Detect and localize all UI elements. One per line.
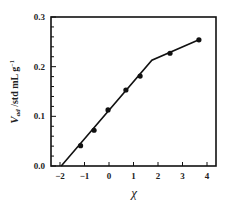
y-axis-ticks: 0.00.10.20.3 [34, 12, 56, 171]
x-tick-label: 1 [131, 171, 136, 181]
x-tick-label: −1 [80, 171, 90, 181]
plot-border [51, 17, 216, 166]
data-point [78, 143, 83, 148]
x-axis-label: χ [129, 185, 137, 200]
x-tick-label: 0 [107, 171, 112, 181]
data-points [78, 37, 202, 148]
y-tick-label: 0.1 [34, 111, 46, 121]
plot-frame [51, 17, 216, 166]
data-point [105, 107, 110, 112]
y-label-rest: /std mL g [9, 67, 20, 110]
data-point [196, 37, 201, 42]
y-tick-label: 0.0 [34, 161, 46, 171]
x-tick-label: 3 [180, 171, 185, 181]
y-axis-label: Vad /std mL g−1 [8, 60, 22, 123]
x-tick-label: −2 [55, 171, 65, 181]
y-tick-label: 0.2 [34, 62, 46, 72]
data-point [138, 74, 143, 79]
y-label-sup: −1 [9, 60, 15, 66]
x-tick-label: 4 [205, 171, 210, 181]
data-point [123, 87, 128, 92]
x-axis-ticks: −2−101234 [55, 162, 210, 181]
data-point [91, 128, 96, 133]
y-tick-label: 0.3 [34, 12, 46, 22]
chart: 0.00.10.20.3 −2−101234 χ Vad /std mL g−1 [0, 0, 231, 209]
x-tick-label: 2 [156, 171, 161, 181]
data-point [167, 51, 172, 56]
